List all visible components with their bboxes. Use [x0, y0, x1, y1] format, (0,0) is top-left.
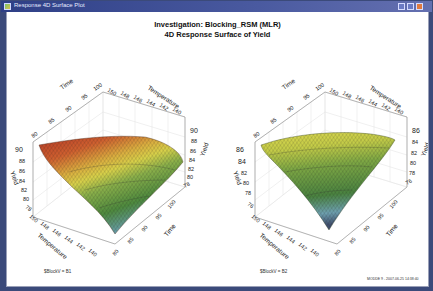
svg-text:78: 78 [183, 181, 191, 189]
svg-text:90: 90 [64, 104, 72, 112]
svg-text:85: 85 [348, 236, 357, 245]
left-yield-axis-right: 90 88 86 84 82 80 78 Yield [183, 127, 210, 189]
svg-text:150: 150 [28, 213, 39, 224]
svg-text:Temperature: Temperature [258, 231, 291, 261]
svg-text:144: 144 [63, 234, 74, 245]
svg-text:84: 84 [189, 157, 195, 163]
svg-text:86: 86 [236, 146, 244, 153]
svg-text:146: 146 [132, 94, 143, 104]
svg-text:148: 148 [341, 90, 352, 100]
right-block-label: $BlockV = B2 [260, 269, 287, 274]
svg-text:95: 95 [80, 92, 88, 100]
svg-text:88: 88 [19, 158, 25, 164]
svg-text:100: 100 [166, 199, 177, 210]
svg-text:80: 80 [187, 174, 193, 180]
left-temperature-axis-bottom: 150 148 146 144 142 140 Temperature [28, 213, 98, 261]
svg-text:78: 78 [24, 204, 32, 212]
svg-text:88: 88 [191, 138, 197, 144]
svg-text:86: 86 [19, 168, 25, 174]
svg-text:82: 82 [21, 187, 27, 193]
timestamp-label: MODDE 9 - 2007-06-25 14:38:40 [367, 277, 419, 281]
svg-text:80: 80 [252, 130, 260, 138]
left-time-axis-top: Time 80 85 90 95 100 [30, 77, 103, 139]
left-surface-plot [33, 92, 185, 244]
right-temperature-axis-top: Temperature 150 148 146 144 142 140 [328, 84, 404, 116]
svg-text:Time: Time [162, 222, 177, 238]
svg-text:85: 85 [47, 116, 55, 124]
svg-text:85: 85 [126, 236, 135, 245]
svg-text:90: 90 [15, 146, 23, 153]
svg-text:146: 146 [273, 227, 284, 238]
right-temperature-axis-bottom: 150 148 146 144 142 140 Temperature [250, 213, 320, 261]
svg-text:90: 90 [140, 224, 149, 233]
svg-text:150: 150 [250, 213, 261, 224]
svg-text:148: 148 [261, 220, 272, 231]
svg-text:Yield: Yield [419, 141, 428, 157]
svg-text:82: 82 [241, 170, 247, 176]
svg-text:140: 140 [171, 106, 182, 116]
minimize-button[interactable] [398, 3, 405, 10]
svg-text:86: 86 [412, 127, 420, 134]
svg-text:Yield: Yield [198, 141, 210, 157]
svg-text:142: 142 [297, 241, 308, 252]
svg-text:146: 146 [354, 94, 365, 104]
svg-text:Temperature: Temperature [36, 231, 69, 261]
svg-text:80: 80 [23, 196, 29, 202]
svg-text:85: 85 [269, 116, 277, 124]
right-time-axis-top: Time 80 85 90 95 100 [252, 77, 325, 139]
svg-text:Time: Time [384, 222, 399, 238]
left-temperature-axis-top: Temperature 150 148 146 144 142 140 [106, 84, 182, 116]
left-block-label: $BlockV = B1 [44, 269, 71, 274]
svg-text:90: 90 [286, 104, 294, 112]
svg-text:95: 95 [154, 212, 163, 221]
right-surface-plot [255, 92, 407, 244]
window-title: Response 4D Surface Plot [14, 2, 85, 8]
plot-area: Investigation: Blocking_RSM (MLR) 4D Res… [6, 12, 429, 287]
svg-text:144: 144 [285, 234, 296, 245]
surface-plots: Time 80 85 90 95 100 Temperature 150 148… [7, 12, 428, 286]
svg-text:144: 144 [145, 98, 156, 108]
svg-text:140: 140 [87, 247, 98, 258]
svg-text:142: 142 [75, 241, 86, 252]
svg-text:78: 78 [409, 170, 415, 176]
svg-text:150: 150 [328, 87, 339, 97]
svg-text:78: 78 [245, 190, 251, 196]
app-icon [4, 3, 11, 10]
title-bar[interactable]: Response 4D Surface Plot [1, 1, 432, 12]
svg-text:95: 95 [302, 92, 310, 100]
close-button[interactable] [416, 3, 423, 10]
svg-text:84: 84 [238, 158, 246, 165]
svg-text:148: 148 [119, 90, 130, 100]
svg-text:140: 140 [393, 106, 404, 116]
app-window: Response 4D Surface Plot Investigation: … [0, 0, 433, 291]
svg-text:100: 100 [92, 82, 103, 92]
svg-text:76: 76 [405, 178, 413, 186]
svg-text:95: 95 [376, 212, 385, 221]
left-yield-axis-left: 90 88 86 84 82 80 78 Yield [9, 146, 33, 212]
svg-text:84: 84 [412, 139, 418, 145]
svg-text:144: 144 [367, 98, 378, 108]
svg-text:90: 90 [362, 224, 371, 233]
svg-text:100: 100 [388, 199, 399, 210]
svg-text:82: 82 [411, 150, 417, 156]
svg-text:86: 86 [190, 148, 196, 154]
svg-text:140: 140 [309, 247, 320, 258]
svg-text:146: 146 [51, 227, 62, 238]
svg-text:Time: Time [281, 77, 297, 91]
svg-text:80: 80 [333, 248, 342, 257]
svg-text:148: 148 [39, 220, 50, 231]
svg-text:90: 90 [190, 127, 198, 134]
right-yield-axis-right: 86 84 82 80 78 76 Yield [405, 127, 429, 186]
svg-text:80: 80 [30, 130, 38, 138]
svg-text:80: 80 [410, 160, 416, 166]
svg-text:150: 150 [106, 87, 117, 97]
svg-text:82: 82 [188, 166, 194, 172]
maximize-button[interactable] [407, 3, 414, 10]
svg-text:Time: Time [59, 77, 75, 91]
svg-text:76: 76 [246, 201, 254, 209]
svg-text:80: 80 [111, 248, 120, 257]
right-yield-axis-left: 86 84 82 80 78 76 Yield [232, 146, 255, 209]
svg-text:100: 100 [314, 82, 325, 92]
